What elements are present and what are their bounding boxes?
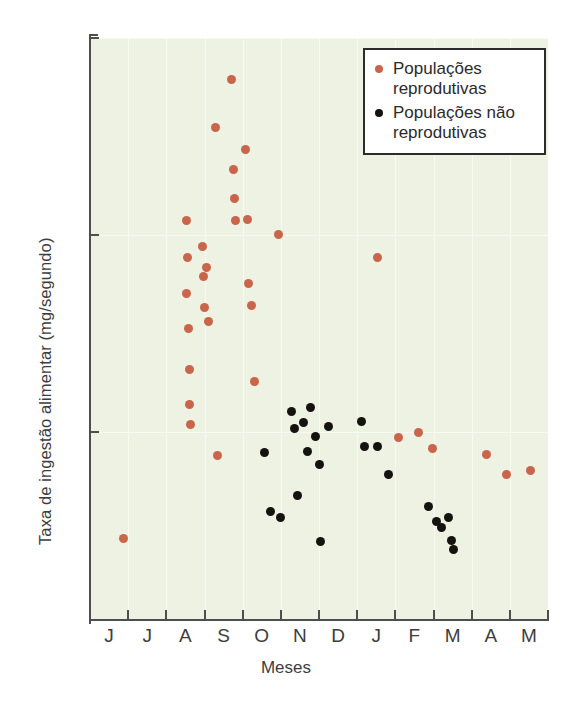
data-point: [360, 442, 369, 451]
x-axis-tick-label: F: [399, 625, 429, 647]
x-axis-tick-label: A: [170, 625, 200, 647]
data-point: [299, 418, 308, 427]
legend-item: Populações reprodutivas: [375, 59, 534, 99]
x-axis-tick: [204, 610, 206, 621]
vertical-gridline: [243, 38, 244, 620]
data-point: [243, 215, 252, 224]
y-axis-tick: [89, 234, 99, 236]
data-point: [274, 230, 283, 239]
x-axis-tick: [433, 610, 435, 621]
data-point: [227, 75, 236, 84]
data-point: [211, 123, 220, 132]
legend-item-label: Populações reprodutivas: [393, 59, 534, 99]
data-point: [444, 513, 453, 522]
scatter-chart-figure: 0,51,01,5 JJASONDJFMAM Taxa de ingestão …: [0, 0, 572, 703]
data-point: [306, 403, 315, 412]
data-point: [394, 433, 403, 442]
data-point: [449, 545, 458, 554]
data-point: [204, 317, 213, 326]
data-point: [247, 301, 256, 310]
x-axis-tick-label: O: [247, 625, 277, 647]
vertical-gridline: [205, 38, 206, 620]
data-point: [414, 428, 423, 437]
data-point: [287, 407, 296, 416]
x-axis-tick-label: M: [438, 625, 468, 647]
data-point: [199, 272, 208, 281]
data-point: [424, 502, 433, 511]
data-point: [276, 513, 285, 522]
data-point: [384, 470, 393, 479]
legend-marker-dot-icon: [375, 109, 383, 117]
data-point: [373, 442, 382, 451]
x-axis-tick-label: S: [209, 625, 239, 647]
data-point: [316, 537, 325, 546]
data-point: [437, 523, 446, 532]
data-point: [184, 324, 193, 333]
data-point: [200, 303, 209, 312]
x-axis-tick-label: J: [132, 625, 162, 647]
data-point: [482, 450, 491, 459]
data-point: [357, 417, 366, 426]
vertical-gridline: [281, 38, 282, 620]
x-axis-tick: [394, 610, 396, 621]
x-axis-tick: [509, 610, 511, 621]
y-axis-tick: [89, 431, 99, 433]
legend-box: Populações reprodutivasPopulações não re…: [363, 48, 546, 155]
y-axis-tick: [89, 37, 99, 39]
data-point: [266, 507, 275, 516]
x-axis-tick-label: N: [285, 625, 315, 647]
data-point: [250, 377, 259, 386]
data-point: [186, 420, 195, 429]
data-point: [182, 289, 191, 298]
data-point: [324, 422, 333, 431]
x-axis-tick: [547, 610, 549, 621]
x-axis-tick: [165, 610, 167, 621]
data-point: [185, 400, 194, 409]
y-axis-line: [89, 34, 91, 624]
x-axis-tick-label: D: [323, 625, 353, 647]
legend-marker-dot-icon: [375, 65, 383, 73]
x-axis-tick: [89, 610, 91, 621]
vertical-gridline: [319, 38, 320, 620]
data-point: [315, 460, 324, 469]
data-point: [119, 534, 128, 543]
x-axis-tick: [242, 610, 244, 621]
vertical-gridline: [128, 38, 129, 620]
data-point: [183, 253, 192, 262]
data-point: [182, 216, 191, 225]
y-axis-title: Taxa de ingestão alimentar (mg/segundo): [36, 238, 55, 546]
data-point: [213, 451, 222, 460]
data-point: [229, 165, 238, 174]
vertical-gridline: [357, 38, 358, 620]
data-point: [428, 444, 437, 453]
horizontal-gridline: [90, 38, 548, 39]
data-point: [447, 536, 456, 545]
x-axis-tick: [318, 610, 320, 621]
x-axis-tick-label: J: [94, 625, 124, 647]
data-point: [526, 466, 535, 475]
data-point: [230, 194, 239, 203]
data-point: [260, 448, 269, 457]
data-point: [244, 279, 253, 288]
data-point: [303, 447, 312, 456]
vertical-gridline: [166, 38, 167, 620]
data-point: [202, 263, 211, 272]
horizontal-gridline: [90, 235, 548, 236]
x-axis-tick-label: M: [514, 625, 544, 647]
data-point: [373, 253, 382, 262]
x-axis-tick: [356, 610, 358, 621]
legend-item-label: Populações não reprodutivas: [393, 103, 534, 143]
x-axis-tick: [280, 610, 282, 621]
x-axis-tick-label: A: [476, 625, 506, 647]
x-axis-tick-label: J: [361, 625, 391, 647]
legend-item: Populações não reprodutivas: [375, 103, 534, 143]
data-point: [241, 145, 250, 154]
data-point: [293, 491, 302, 500]
y-axis-top-cap: [89, 34, 98, 36]
data-point: [185, 365, 194, 374]
x-axis-tick: [127, 610, 129, 621]
x-axis-title: Meses: [0, 658, 572, 678]
data-point: [231, 216, 240, 225]
data-point: [198, 242, 207, 251]
x-axis-tick: [471, 610, 473, 621]
